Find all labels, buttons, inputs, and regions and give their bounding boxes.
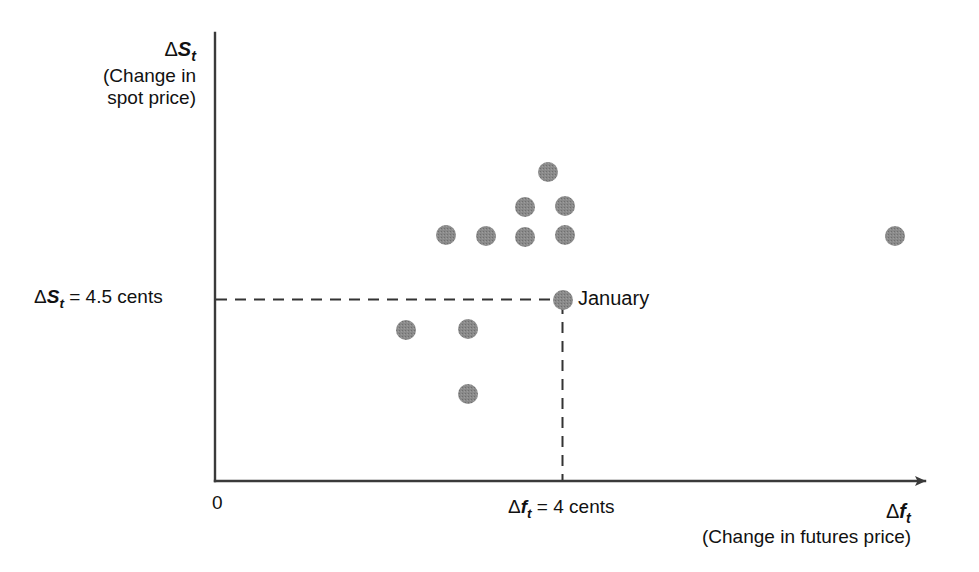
data-point[interactable] <box>436 225 456 245</box>
x-reference-delta-symbol: Δ <box>508 496 521 517</box>
y-axis-subscript: t <box>191 48 196 64</box>
x-axis-subscript: t <box>906 510 911 526</box>
data-point[interactable] <box>515 227 535 247</box>
data-point[interactable] <box>555 225 575 245</box>
origin-label: 0 <box>212 492 223 514</box>
data-point[interactable] <box>458 319 478 339</box>
x-axis-label-symbol: Δft <box>886 500 911 527</box>
y-reference-variable-symbol: S <box>47 286 60 307</box>
y-reference-value-text: = 4.5 cents <box>64 286 163 307</box>
y-axis-delta-symbol: Δ <box>165 38 178 60</box>
y-axis-label: ΔSt (Change in spot price) <box>36 38 196 110</box>
data-point-january[interactable] <box>553 290 573 310</box>
data-point-outlier[interactable] <box>885 226 905 246</box>
x-axis-delta-symbol: Δ <box>886 500 899 522</box>
y-axis-caption-line2: spot price) <box>36 87 196 109</box>
y-axis-variable-symbol: S <box>178 38 191 60</box>
y-axis-caption-line1: (Change in <box>36 65 196 87</box>
data-point[interactable] <box>538 162 558 182</box>
data-point[interactable] <box>476 226 496 246</box>
y-reference-delta-symbol: Δ <box>34 286 47 307</box>
y-reference-value-label: ΔSt = 4.5 cents <box>34 286 163 312</box>
x-axis-caption: (Change in futures price) <box>702 526 911 548</box>
data-point[interactable] <box>555 196 575 216</box>
scatter-plot-figure: ΔSt (Change in spot price) Δft (Change i… <box>0 0 979 572</box>
data-point[interactable] <box>515 197 535 217</box>
data-point[interactable] <box>396 320 416 340</box>
data-point-group <box>396 162 905 404</box>
x-reference-value-label: Δft = 4 cents <box>508 496 615 522</box>
january-point-label: January <box>578 287 649 311</box>
data-point[interactable] <box>458 384 478 404</box>
x-reference-value-text: = 4 cents <box>532 496 615 517</box>
